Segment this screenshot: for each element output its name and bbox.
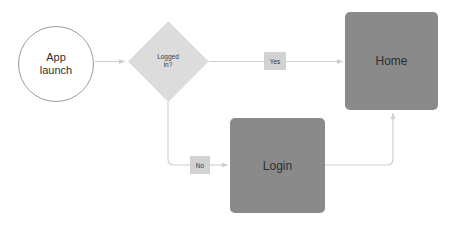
node-app-launch-label-line2: launch — [40, 64, 72, 76]
node-home[interactable]: Home — [345, 12, 438, 110]
flowchart-canvas: App launch Logged in? Home Login Yes No — [0, 0, 461, 228]
edge-label-yes-text: Yes — [270, 58, 281, 65]
edge-login-to-home — [325, 113, 393, 165]
node-logged-in-decision[interactable]: Logged in? — [128, 21, 208, 101]
node-app-launch-label: App launch — [40, 51, 72, 77]
node-login[interactable]: Login — [230, 118, 325, 213]
node-logged-in-label-line2: in? — [164, 61, 173, 68]
node-app-launch-label-line1: App — [46, 51, 66, 63]
node-app-launch[interactable]: App launch — [18, 26, 94, 102]
node-home-label: Home — [375, 54, 407, 68]
node-login-label: Login — [263, 159, 292, 173]
edge-label-no-text: No — [196, 162, 204, 169]
node-logged-in-label-line1: Logged — [157, 53, 179, 60]
node-logged-in-label: Logged in? — [157, 53, 179, 70]
edge-label-yes: Yes — [264, 52, 286, 70]
edge-label-no: No — [190, 156, 210, 174]
